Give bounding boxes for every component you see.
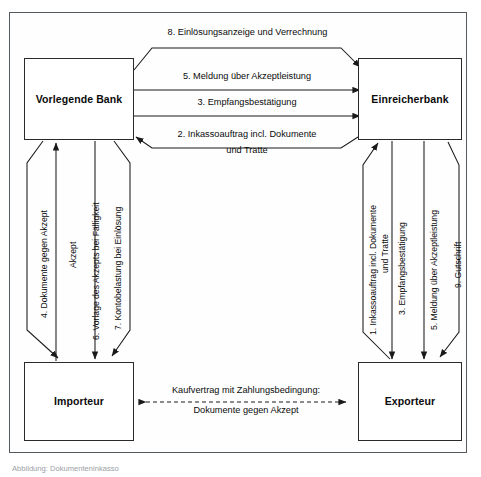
node-vorlegende-bank-label: Vorlegende Bank	[36, 93, 123, 106]
edge-kaufvertrag-label-line1: Kaufvertrag mit Zahlungsbedingung:	[146, 384, 346, 396]
figure-caption: Abbildung: Dokumenteninkasso	[12, 464, 119, 476]
node-exporteur: Exporteur	[358, 362, 462, 441]
edge-5-right-label: 5. Meldung über Akzeptleistung	[429, 210, 440, 330]
edge-1-label-line2: und Tratte	[380, 234, 391, 273]
edge-3-top-label: 3. Empfangsbestätigung	[144, 96, 350, 108]
edge-8-path	[134, 48, 360, 70]
node-einreicherbank: Einreicherbank	[358, 58, 462, 140]
node-exporteur-label: Exporteur	[385, 395, 436, 408]
edge-kaufvertrag-label-line2: Dokumente gegen Akzept	[146, 404, 346, 416]
edge-5-top-label: 5. Meldung über Akzeptleistung	[144, 70, 350, 82]
node-vorlegende-bank: Vorlegende Bank	[24, 58, 134, 140]
edge-2-label-line1: 2. Inkassoauftrag incl. Dokumente	[144, 128, 350, 140]
edge-8-label: 8. Einlösungsanzeige und Verrechnung	[140, 26, 355, 38]
edge-6-label: 6. Vorlage des Akzepts bei Fälligkeit	[91, 202, 102, 340]
node-importeur-label: Importeur	[54, 395, 104, 408]
edge-2-label-line2: und Tratte	[144, 144, 350, 156]
edge-7-label: 7. Kontobelastung bei Einlösung	[113, 207, 124, 330]
edge-3-right-label: 3. Empfangsbestätigung	[397, 222, 408, 315]
node-importeur: Importeur	[24, 362, 134, 441]
diagram-page: Vorlegende Bank Einreicherbank Importeur…	[0, 0, 481, 477]
edge-1-label-line1: 1. Inkassoauftrag incl. Dokumente	[368, 205, 379, 335]
edge-akzept-label: Akzept	[68, 242, 79, 268]
edge-4-label: 4. Dokumente gegen Akzept	[39, 210, 50, 318]
node-einreicherbank-label: Einreicherbank	[371, 93, 448, 106]
edge-9-label: 9. Gutschrift	[453, 242, 464, 288]
